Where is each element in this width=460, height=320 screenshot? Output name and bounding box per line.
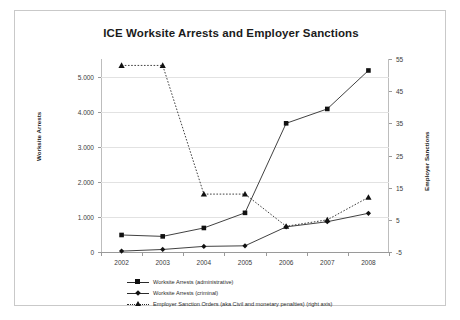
legend-key-triangle-icon <box>127 300 149 309</box>
x-axis-tick-label: 2005 <box>238 259 252 266</box>
chart-title: ICE Worksite Arrests and Employer Sancti… <box>15 27 447 39</box>
y-axis-right-tick-label: 55 <box>396 56 403 63</box>
data-point-marker <box>366 68 371 73</box>
legend-key-square-icon <box>127 278 149 287</box>
tick-mark <box>389 91 392 92</box>
chart-frame: ICE Worksite Arrests and Employer Sancti… <box>14 10 446 306</box>
data-point-marker <box>118 62 124 68</box>
legend-label: Worksite Arrests (criminal) <box>149 290 218 296</box>
data-point-marker <box>160 247 165 252</box>
tick-mark <box>224 252 225 256</box>
tick-mark <box>266 252 267 256</box>
data-point-marker <box>119 233 124 238</box>
y-axis-right-tick-label: 25 <box>396 152 403 159</box>
y-axis-right-title: Employer Sanctions <box>423 132 430 192</box>
y-axis-right-tick-label: 35 <box>396 120 403 127</box>
legend-label: Worksite Arrests (administrative) <box>149 279 233 285</box>
x-axis-tick-label: 2002 <box>114 259 128 266</box>
data-point-marker <box>284 121 289 126</box>
data-point-marker <box>366 211 371 216</box>
y-axis-right-tick-label: 15 <box>396 184 403 191</box>
x-axis-tick-label: 2008 <box>361 259 375 266</box>
y-axis-left-tick-label: 0 <box>90 249 94 256</box>
y-axis-right-tick-label: -5 <box>396 249 402 256</box>
tick-mark <box>389 252 390 256</box>
tick-mark <box>389 59 392 60</box>
tick-mark <box>389 123 392 124</box>
x-axis-tick-label: 2003 <box>155 259 169 266</box>
legend-label: Employer Sanction Orders (aka Civil and … <box>149 301 332 307</box>
x-axis-tick-label: 2004 <box>197 259 211 266</box>
y-axis-left-title: Worksite Arrests <box>35 112 42 161</box>
data-point-marker <box>324 217 330 223</box>
data-point-marker <box>325 107 330 112</box>
legend-key-diamond-icon <box>127 289 149 298</box>
legend-item-criminal[interactable]: Worksite Arrests (criminal) <box>127 288 427 298</box>
x-axis-tick-label: 2006 <box>279 259 293 266</box>
data-point-marker <box>160 234 165 239</box>
y-axis-left-tick-label: 1.000 <box>78 213 94 220</box>
tick-mark <box>183 252 184 256</box>
y-axis-left-tick-label: 3.000 <box>78 143 94 150</box>
legend-item-sanctions[interactable]: Employer Sanction Orders (aka Civil and … <box>127 299 427 309</box>
tick-mark <box>307 252 308 256</box>
y-axis-right-tick-label: 5 <box>396 216 400 223</box>
plot-area: 01.0002.0003.0004.0005.000 -551525354555… <box>101 59 389 252</box>
y-axis-right-tick-label: 45 <box>396 88 403 95</box>
data-point-marker <box>202 226 207 231</box>
series-line <box>122 65 369 226</box>
data-point-marker <box>201 244 206 249</box>
y-axis-left-tick-label: 5.000 <box>78 73 94 80</box>
data-point-marker <box>201 191 207 197</box>
series-layer <box>101 59 389 252</box>
y-axis-left-tick-label: 2.000 <box>78 178 94 185</box>
tick-mark <box>389 188 392 189</box>
data-point-marker <box>365 194 371 200</box>
legend: Worksite Arrests (administrative) Worksi… <box>127 277 427 310</box>
x-axis-tick-label: 2007 <box>320 259 334 266</box>
y-axis-left-tick-label: 4.000 <box>78 108 94 115</box>
legend-item-administrative[interactable]: Worksite Arrests (administrative) <box>127 277 427 287</box>
data-point-marker <box>242 243 247 248</box>
tick-mark <box>101 252 102 256</box>
x-axis-line <box>101 252 389 253</box>
tick-mark <box>142 252 143 256</box>
tick-mark <box>389 156 392 157</box>
tick-mark <box>389 220 392 221</box>
data-point-marker <box>243 211 248 216</box>
tick-mark <box>348 252 349 256</box>
data-point-marker <box>283 223 289 229</box>
